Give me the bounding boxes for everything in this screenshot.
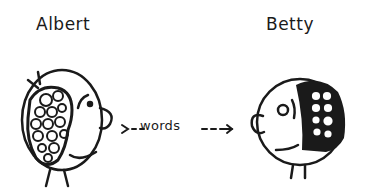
betty-brain [296,81,345,152]
albert-brain [28,87,72,164]
diagram-canvas [0,0,371,196]
words-label: words [140,118,180,133]
